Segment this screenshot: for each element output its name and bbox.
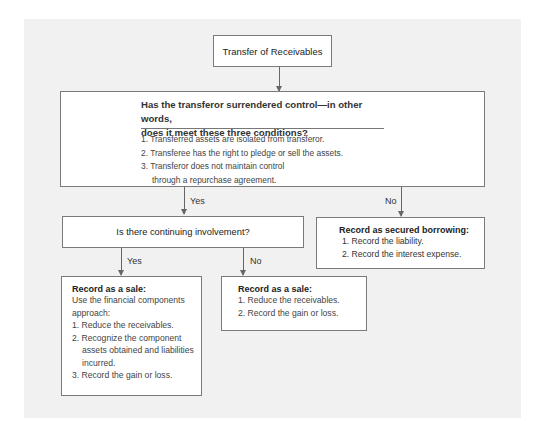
condition-item: 1. Transferred assets are isolated from … bbox=[141, 133, 402, 147]
sale-steps: 1. Reduce the receivables. 2. Record the… bbox=[238, 294, 366, 319]
step-item: 2. Record the interest expense. bbox=[342, 248, 484, 261]
question-heading-line-1: Has the transferor surrendered control—i… bbox=[141, 98, 381, 126]
sale-without-involvement-box: Record as a sale: 1. Reduce the receivab… bbox=[221, 276, 367, 331]
step-item: 2. Recognize the component assets obtain… bbox=[72, 332, 194, 370]
transfer-of-receivables-box: Transfer of Receivables bbox=[213, 35, 332, 67]
conditions-list: 1. Transferred assets are isolated from … bbox=[141, 133, 402, 187]
condition-item: 2. Transferee has the right to pledge or… bbox=[141, 147, 402, 161]
yes-label: Yes bbox=[127, 256, 142, 266]
arrow-down-icon bbox=[279, 67, 280, 91]
condition-item: 3. Transferor does not maintain control … bbox=[141, 160, 302, 187]
secured-borrowing-box: Record as secured borrowing: 1. Record t… bbox=[316, 217, 485, 269]
arrow-down-icon bbox=[184, 187, 185, 214]
surrendered-control-question-box: Has the transferor surrendered control—i… bbox=[60, 91, 485, 187]
arrow-down-icon bbox=[121, 248, 122, 275]
secured-borrowing-steps: 1. Record the liability. 2. Record the i… bbox=[339, 235, 484, 260]
step-item: 1. Record the liability. bbox=[342, 235, 484, 248]
diagram-title: Transfer of Receivables bbox=[223, 46, 323, 57]
no-label: No bbox=[385, 196, 397, 206]
step-item: 1. Reduce the receivables. bbox=[72, 319, 194, 332]
yes-label: Yes bbox=[190, 196, 205, 206]
secured-borrowing-title: Record as secured borrowing: bbox=[339, 225, 484, 235]
arrow-down-icon bbox=[243, 248, 244, 275]
step-item: 2. Record the gain or loss. bbox=[238, 307, 366, 320]
sale-with-involvement-box: Record as a sale: Use the financial comp… bbox=[61, 276, 202, 396]
heading-divider bbox=[141, 128, 384, 129]
sale-title: Record as a sale: bbox=[72, 284, 193, 294]
step-item: 3. Record the gain or loss. bbox=[72, 369, 194, 382]
sale-steps: 1. Reduce the receivables. 2. Recognize … bbox=[72, 319, 194, 382]
step-item: 1. Reduce the receivables. bbox=[238, 294, 366, 307]
continuing-involvement-box: Is there continuing involvement? bbox=[62, 216, 304, 248]
sale-title: Record as a sale: bbox=[238, 284, 366, 294]
arrow-down-icon bbox=[401, 187, 402, 216]
continuing-involvement-question: Is there continuing involvement? bbox=[116, 227, 249, 237]
financial-components-intro: Use the financial components approach: bbox=[72, 294, 192, 319]
no-label: No bbox=[250, 256, 262, 266]
